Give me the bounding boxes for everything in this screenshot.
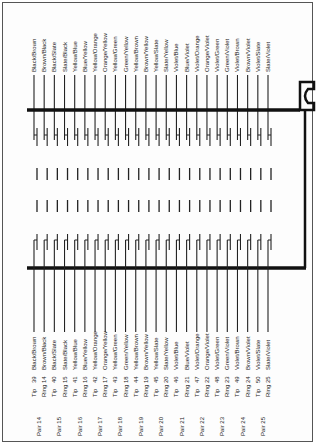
tip-ring-label: Ring bbox=[102, 385, 108, 397]
wire-color-label: Orange/Yellow bbox=[102, 331, 108, 370]
tip-ring-label: Tip bbox=[153, 388, 159, 397]
pin-number: 48 bbox=[214, 376, 220, 383]
top-wire-label: Violet/Blue bbox=[173, 43, 179, 72]
wiring-diagram: Black/BrownBrown/BlackBlack/SlateSlate/B… bbox=[0, 0, 317, 446]
wire-color-label: Orange/Violet bbox=[204, 333, 210, 370]
wire-color-label: Slate/Yellow bbox=[163, 337, 169, 370]
top-wire-label: Yellow/Blue bbox=[72, 41, 78, 72]
pin-number: 14 bbox=[41, 376, 47, 383]
pin-number: 43 bbox=[112, 376, 118, 383]
top-wire-label: Blue/Yellow bbox=[82, 41, 88, 72]
pin-number: 44 bbox=[133, 376, 139, 383]
wire-color-label: Green/Violet bbox=[224, 336, 230, 370]
top-wire-label: Black/Brown bbox=[31, 39, 37, 72]
pair-label: Pair 22 bbox=[199, 416, 205, 436]
wire-color-label: Violet/Orange bbox=[194, 333, 200, 370]
pin-number: 45 bbox=[153, 376, 159, 383]
top-wire-label: Black/Slate bbox=[51, 41, 57, 72]
top-wire-label: Brown/Violet bbox=[245, 38, 251, 72]
pair-label: Pair 15 bbox=[56, 416, 62, 436]
pair-label: Pair 20 bbox=[158, 416, 164, 436]
top-wire-label: Green/Yellow bbox=[123, 36, 129, 72]
pair-label: Pair 18 bbox=[117, 416, 123, 436]
wire-color-label: Blue/Violet bbox=[184, 341, 190, 370]
tip-ring-label: Tip bbox=[234, 388, 240, 397]
tip-ring-label: Tip bbox=[112, 388, 118, 397]
pair-label: Pair 21 bbox=[179, 416, 185, 436]
tip-ring-label: Ring bbox=[245, 385, 251, 397]
top-wire-label: Orange/Violet bbox=[204, 35, 210, 72]
pin-number: 50 bbox=[255, 376, 261, 383]
wire-color-label: Black/Slate bbox=[51, 339, 57, 370]
pair-label: Pair 16 bbox=[77, 416, 83, 436]
pin-number: 16 bbox=[82, 376, 88, 383]
pin-number: 49 bbox=[234, 376, 240, 383]
tip-ring-label: Ring bbox=[163, 385, 169, 397]
wire-color-label: Slate/Violet bbox=[265, 339, 271, 370]
top-wire-label: Slate/Black bbox=[62, 41, 68, 72]
wire-color-label: Yellow/Green bbox=[112, 335, 118, 370]
wire-color-label: Yellow/Orange bbox=[92, 331, 98, 370]
tip-ring-label: Tip bbox=[72, 388, 78, 397]
pair-label: Pair 23 bbox=[219, 416, 225, 436]
tip-ring-label: Ring bbox=[62, 385, 68, 397]
tip-ring-label: Tip bbox=[92, 388, 98, 397]
wire-color-label: Slate/Black bbox=[62, 339, 68, 370]
tip-ring-label: Ring bbox=[41, 385, 47, 397]
tip-ring-label: Ring bbox=[265, 385, 271, 397]
tip-ring-label: Ring bbox=[123, 385, 129, 397]
tip-ring-label: Tip bbox=[31, 388, 37, 397]
top-wire-label: Slate/Violet bbox=[265, 41, 271, 72]
wire-color-label: Violet/Green bbox=[214, 337, 220, 370]
pin-number: 46 bbox=[173, 376, 179, 383]
top-wire-label: Brown/Yellow bbox=[143, 36, 149, 72]
tip-ring-label: Ring bbox=[82, 385, 88, 397]
pair-label: Pair 17 bbox=[97, 416, 103, 436]
pin-number: 22 bbox=[204, 376, 210, 383]
wire-color-label: Blue/Yellow bbox=[82, 339, 88, 370]
pin-number: 20 bbox=[163, 376, 169, 383]
top-wire-label: Brown/Black bbox=[41, 38, 47, 72]
top-wire-label: Violet/Brown bbox=[234, 38, 240, 72]
tip-ring-label: Ring bbox=[204, 385, 210, 397]
wire-color-label: Brown/Yellow bbox=[143, 334, 149, 370]
top-wire-label: Violet/Orange bbox=[194, 35, 200, 72]
pin-number: 21 bbox=[184, 376, 190, 383]
pin-number: 19 bbox=[143, 376, 149, 383]
wire-color-label: Violet/Slate bbox=[255, 339, 261, 370]
wire-color-label: Green/Yellow bbox=[123, 334, 129, 370]
wire-color-label: Yellow/Brown bbox=[133, 334, 139, 370]
pair-label: Pair 25 bbox=[260, 416, 266, 436]
top-wire-label: Orange/Yellow bbox=[102, 33, 108, 72]
pair-label: Pair 14 bbox=[36, 416, 42, 436]
top-wire-label: Blue/Violet bbox=[184, 43, 190, 72]
tip-ring-label: Tip bbox=[194, 388, 200, 397]
pin-number: 41 bbox=[72, 376, 78, 383]
tip-ring-label: Tip bbox=[214, 388, 220, 397]
pin-number: 40 bbox=[51, 376, 57, 383]
connector-icon bbox=[300, 82, 314, 110]
pin-number: 15 bbox=[62, 376, 68, 383]
pin-number: 47 bbox=[194, 376, 200, 383]
wire-color-label: Yellow/Slate bbox=[153, 337, 159, 370]
pin-number: 42 bbox=[92, 376, 98, 383]
top-wire-label: Violet/Slate bbox=[255, 41, 261, 72]
top-wire-label: Violet/Green bbox=[214, 39, 220, 72]
pair-label: Pair 19 bbox=[138, 416, 144, 436]
top-wire-label: Yellow/Green bbox=[112, 37, 118, 72]
pair-label: Pair 24 bbox=[240, 416, 246, 436]
wire-color-label: Brown/Black bbox=[41, 336, 47, 370]
wire-color-label: Violet/Blue bbox=[173, 341, 179, 370]
tip-ring-label: Tip bbox=[173, 388, 179, 397]
tip-ring-label: Tip bbox=[255, 388, 261, 397]
tip-ring-label: Ring bbox=[184, 385, 190, 397]
top-wire-label: Yellow/Brown bbox=[133, 36, 139, 72]
tip-ring-label: Ring bbox=[224, 385, 230, 397]
wire-color-label: Black/Brown bbox=[31, 337, 37, 370]
pin-number: 18 bbox=[123, 376, 129, 383]
tip-ring-label: Tip bbox=[133, 388, 139, 397]
pin-number: 17 bbox=[102, 376, 108, 383]
tip-ring-label: Ring bbox=[143, 385, 149, 397]
pin-number: 24 bbox=[245, 376, 251, 383]
tip-ring-label: Tip bbox=[51, 388, 57, 397]
